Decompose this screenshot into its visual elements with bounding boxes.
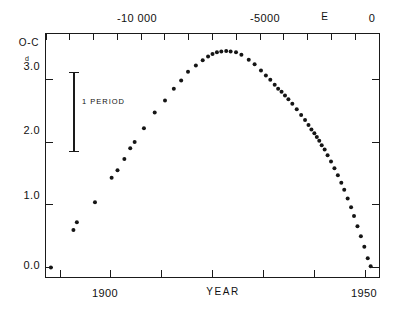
- data-point: [346, 197, 350, 201]
- data-point: [369, 264, 373, 268]
- y-axis-tick-label-1: 1.0: [24, 189, 41, 201]
- data-point: [93, 200, 97, 204]
- data-point: [326, 153, 330, 157]
- data-point: [224, 49, 228, 53]
- y-axis-unit-superscript: d: [25, 55, 29, 62]
- scatter-points-group: [49, 49, 373, 270]
- data-point: [49, 266, 53, 270]
- data-point: [75, 220, 79, 224]
- data-point: [142, 126, 146, 130]
- left-axis-ticks: [46, 79, 53, 267]
- data-point: [359, 234, 363, 238]
- data-point: [219, 50, 223, 54]
- data-point: [206, 55, 210, 59]
- one-period-error-bar: [69, 73, 79, 151]
- data-point: [286, 97, 290, 101]
- data-point: [133, 140, 137, 144]
- oc-diagram-figure: -10 000 -5000 0 E O-C 3.0 d 2.0 1.0 0.0 …: [0, 0, 398, 309]
- data-point: [295, 107, 299, 111]
- data-point: [312, 131, 316, 135]
- data-point: [268, 78, 272, 82]
- top-axis-tick-label-zero: 0: [369, 12, 376, 24]
- bottom-axis-title: YEAR: [206, 286, 240, 297]
- data-point: [323, 148, 327, 152]
- data-point: [122, 157, 126, 161]
- y-axis-tick-label-0: 0.0: [24, 259, 41, 271]
- data-point: [290, 102, 294, 106]
- one-period-label: 1 PERIOD: [82, 97, 125, 106]
- data-point: [186, 70, 190, 74]
- data-point: [172, 87, 176, 91]
- data-point: [320, 143, 324, 147]
- data-point: [211, 52, 215, 56]
- bottom-axis-tick-label-1900: 1900: [92, 287, 118, 299]
- data-point: [339, 181, 343, 185]
- data-point: [355, 224, 359, 228]
- bottom-axis-ticks: [60, 270, 365, 277]
- data-point: [215, 50, 219, 54]
- data-point: [116, 168, 120, 172]
- data-point: [315, 135, 319, 139]
- data-point: [128, 146, 132, 150]
- data-point: [153, 110, 157, 114]
- data-point: [179, 78, 183, 82]
- y-axis-title: O-C: [19, 37, 40, 48]
- data-point: [317, 139, 321, 143]
- data-point: [299, 113, 303, 117]
- data-point: [306, 123, 310, 127]
- data-point: [239, 53, 243, 57]
- data-point: [303, 118, 307, 122]
- data-point: [276, 87, 280, 91]
- data-point: [283, 94, 287, 98]
- data-point: [253, 62, 257, 66]
- data-point: [309, 127, 313, 131]
- data-point: [229, 50, 233, 54]
- top-axis-title: E: [321, 11, 328, 22]
- data-point: [280, 90, 284, 94]
- y-axis-tick-label-2: 2.0: [24, 124, 41, 136]
- data-point: [234, 50, 238, 54]
- data-point: [264, 73, 268, 77]
- data-point: [273, 83, 277, 87]
- data-point: [336, 173, 340, 177]
- data-point: [259, 68, 263, 72]
- top-axis-ticks: [46, 34, 379, 40]
- data-point: [342, 188, 346, 192]
- top-axis-tick-label-minus-5000: -5000: [250, 12, 280, 24]
- chart-canvas: -10 000 -5000 0 E O-C 3.0 d 2.0 1.0 0.0 …: [0, 0, 398, 309]
- data-point: [163, 99, 167, 103]
- data-point: [110, 176, 114, 180]
- data-point: [329, 159, 333, 163]
- data-point: [352, 214, 356, 218]
- data-point: [349, 205, 353, 209]
- data-point: [71, 228, 75, 232]
- right-axis-ticks: [372, 79, 379, 267]
- bottom-axis-tick-label-1950: 1950: [351, 287, 377, 299]
- top-axis-tick-label-minus-10000: -10 000: [117, 12, 157, 24]
- data-point: [194, 63, 198, 67]
- data-point: [247, 58, 251, 62]
- data-point: [366, 256, 370, 260]
- data-point: [332, 166, 336, 170]
- data-point: [362, 245, 366, 249]
- data-point: [201, 58, 205, 62]
